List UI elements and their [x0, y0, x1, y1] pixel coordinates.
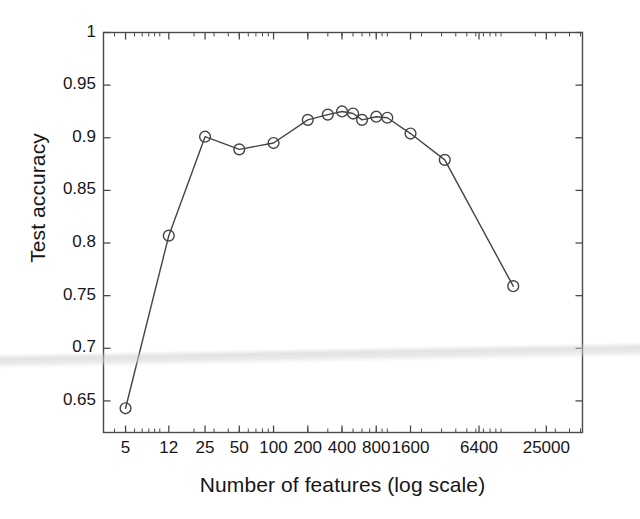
y-tick-label: 0.7 [34, 337, 96, 357]
x-tick-label: 5 [121, 438, 130, 458]
x-tick-label: 50 [230, 438, 249, 458]
x-tick-label: 12 [159, 438, 178, 458]
y-tick-label: 0.95 [34, 74, 96, 94]
x-tick-label: 6400 [460, 438, 498, 458]
y-tick-label: 1 [34, 22, 96, 42]
y-axis-title: Test accuracy [26, 98, 50, 298]
x-tick-label: 800 [362, 438, 390, 458]
x-tick-label: 100 [259, 438, 287, 458]
x-tick-label: 25000 [523, 438, 570, 458]
x-axis-title: Number of features (log scale) [103, 473, 582, 497]
x-tick-label: 1600 [392, 438, 430, 458]
x-tick-label: 200 [294, 438, 322, 458]
x-tick-label: 25 [196, 438, 215, 458]
x-tick-label: 400 [328, 438, 356, 458]
y-tick-label: 0.65 [34, 390, 96, 410]
